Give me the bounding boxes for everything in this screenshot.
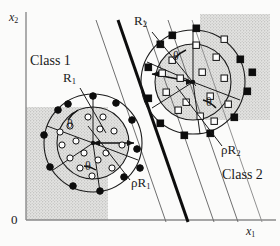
theta-label-c2-lower: θ — [206, 96, 212, 108]
class-1-label: Class 1 — [30, 54, 71, 68]
rho-R2-label: ρR2 — [221, 143, 240, 157]
theta-label-c1-upper: θ — [67, 118, 73, 130]
origin-label: 0 — [11, 213, 18, 226]
x-axis-label: x1 — [246, 225, 255, 239]
diagram-canvas — [0, 0, 280, 246]
classification-diagram: x2 x1 0 Class 1 Class 2 R1 R2 ρR1 ρR2 θ … — [0, 0, 280, 246]
class-2-label: Class 2 — [222, 168, 263, 182]
R1-label: R1 — [63, 71, 76, 85]
y-axis-label: x2 — [9, 11, 18, 25]
theta-label-c2-upper: θ — [173, 50, 179, 62]
theta-label-c1-lower: θ — [85, 160, 91, 172]
rho-R1-label: ρR1 — [131, 176, 150, 190]
R2-label: R2 — [134, 14, 147, 28]
